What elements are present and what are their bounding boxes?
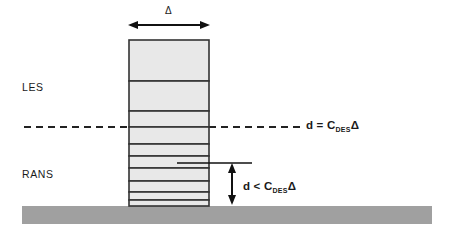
grid-cell	[129, 40, 209, 81]
grid-column	[129, 40, 209, 206]
grid-cell	[129, 156, 209, 168]
equal-length-scale-label: d = CDESΔ	[306, 120, 359, 133]
equal-label-suffix: Δ	[351, 119, 359, 131]
less-label-suffix: Δ	[288, 180, 296, 192]
less-label-prefix: d < C	[243, 180, 272, 192]
grid-cell	[129, 192, 209, 200]
diagram-canvas	[0, 0, 450, 236]
grid-cell	[129, 127, 209, 144]
delta-symbol-label: Δ	[165, 6, 172, 16]
grid-cell	[129, 81, 209, 111]
des-grid-diagram: Δ LES RANS d = CDESΔ d < CDESΔ	[0, 0, 450, 236]
equal-label-prefix: d = C	[306, 119, 335, 131]
grid-cell	[129, 181, 209, 192]
delta-dimension-arrow	[128, 21, 210, 29]
les-region-label: LES	[22, 82, 44, 93]
grid-cell	[129, 111, 209, 127]
equal-label-subscript: DES	[335, 126, 350, 133]
grid-cell	[129, 200, 209, 206]
grid-cell	[129, 168, 209, 181]
wall-distance-arrow	[228, 163, 236, 205]
grid-cell	[129, 144, 209, 156]
ground-band	[22, 206, 432, 224]
rans-region-label: RANS	[22, 169, 54, 180]
less-than-length-scale-label: d < CDESΔ	[243, 181, 296, 194]
less-label-subscript: DES	[272, 187, 287, 194]
